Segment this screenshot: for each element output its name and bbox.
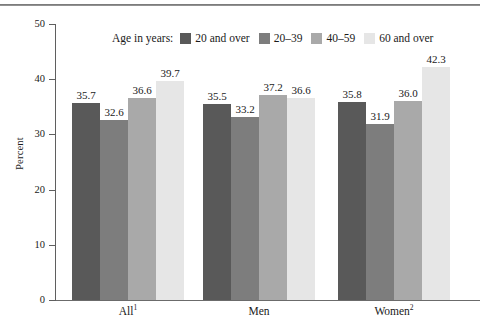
bar-slot: 39.7 [156, 24, 184, 300]
bar-value-label: 36.6 [132, 84, 151, 96]
footnote-marker: 1 [133, 303, 137, 312]
x-axis-line [55, 300, 480, 301]
x-axis-category-text: Women [374, 305, 409, 317]
footnote-marker: 2 [410, 303, 414, 312]
bar-slot: 42.3 [422, 24, 450, 300]
bar-value-label: 33.2 [235, 103, 254, 115]
bar-value-label: 35.8 [342, 88, 361, 100]
bar-group: 35.533.237.236.6 [203, 24, 315, 300]
bar-value-label: 31.9 [370, 110, 389, 122]
bar-value-label: 42.3 [426, 53, 445, 65]
bar[interactable]: 31.9 [366, 124, 394, 300]
y-axis-line [55, 24, 56, 301]
y-axis-tick-label: 20 [17, 185, 45, 195]
x-axis-category-text: All [119, 305, 134, 317]
bar-value-label: 32.6 [104, 106, 123, 118]
bar-group: 35.732.636.639.7 [72, 24, 184, 300]
x-axis-category-text: Men [248, 305, 269, 317]
bar-slot: 32.6 [100, 24, 128, 300]
y-axis-tick-label: 50 [17, 19, 45, 29]
bar[interactable]: 35.8 [338, 102, 366, 300]
bar[interactable]: 39.7 [156, 81, 184, 300]
bar-value-label: 36.6 [291, 84, 310, 96]
bar[interactable]: 36.0 [394, 101, 422, 300]
bar[interactable]: 35.7 [72, 103, 100, 300]
bar[interactable]: 36.6 [128, 98, 156, 300]
bar[interactable]: 36.6 [287, 98, 315, 300]
top-divider [0, 4, 480, 6]
x-axis-category-label: Men [209, 305, 309, 317]
y-axis-tick-label: 10 [17, 240, 45, 250]
y-axis-tick [49, 24, 56, 25]
y-axis-tick [49, 79, 56, 80]
bar-value-label: 37.2 [263, 81, 282, 93]
y-axis-tick [49, 245, 56, 246]
bar[interactable]: 33.2 [231, 117, 259, 300]
bar-chart-figure: Percent 01020304050 Age in years: 20 and… [0, 0, 480, 331]
bar-slot: 31.9 [366, 24, 394, 300]
bar-value-label: 39.7 [160, 67, 179, 79]
y-axis-tick [49, 134, 56, 135]
bar[interactable]: 32.6 [100, 120, 128, 300]
y-axis-tick-label: 0 [17, 295, 45, 305]
bar-slot: 37.2 [259, 24, 287, 300]
bar-slot: 35.7 [72, 24, 100, 300]
bar-value-label: 35.5 [207, 90, 226, 102]
y-axis-tick [49, 300, 56, 301]
bar-group: 35.831.936.042.3 [338, 24, 450, 300]
y-axis-tick-label: 40 [17, 74, 45, 84]
bar-slot: 35.8 [338, 24, 366, 300]
bar-value-label: 36.0 [398, 87, 417, 99]
bar-slot: 36.6 [287, 24, 315, 300]
bar[interactable]: 35.5 [203, 104, 231, 300]
bar-slot: 35.5 [203, 24, 231, 300]
bar-slot: 36.6 [128, 24, 156, 300]
bar-value-label: 35.7 [76, 89, 95, 101]
x-axis-category-label: All1 [78, 305, 178, 317]
bar-slot: 33.2 [231, 24, 259, 300]
x-axis-category-label: Women2 [344, 305, 444, 317]
bar[interactable]: 42.3 [422, 67, 450, 300]
y-axis-tick-label: 30 [17, 129, 45, 139]
bar[interactable]: 37.2 [259, 95, 287, 300]
y-axis-tick [49, 190, 56, 191]
bar-slot: 36.0 [394, 24, 422, 300]
